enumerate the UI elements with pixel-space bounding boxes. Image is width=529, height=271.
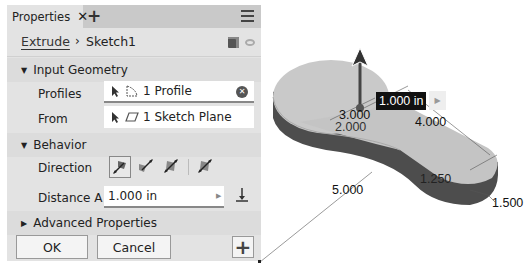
3d-viewport[interactable] — [261, 0, 529, 271]
section-title: Advanced Properties — [33, 216, 157, 230]
distance-menu-arrow-icon[interactable]: ▶ — [216, 192, 221, 200]
dimension-5000[interactable]: 5.000 — [332, 183, 363, 197]
distance-a-label: Distance A — [38, 191, 103, 205]
direction-asymmetric-icon — [195, 156, 215, 176]
tab-properties[interactable]: Properties ✕ — [7, 5, 83, 28]
collapse-triangle-icon: ▼ — [21, 141, 27, 150]
collapse-triangle-icon: ▼ — [21, 66, 27, 75]
from-value: 1 Sketch Plane — [143, 110, 232, 124]
direction-default-icon — [110, 157, 130, 177]
expand-triangle-icon: ▶ — [21, 219, 27, 228]
add-button[interactable]: + — [232, 236, 254, 258]
extrude-distance-input[interactable]: 1.000 in — [376, 92, 426, 110]
panel-tab-bar: Properties ✕ + — [7, 5, 261, 28]
direction-flipped-icon — [136, 156, 156, 176]
distance-a-input[interactable]: 1.000 in — [104, 186, 224, 208]
direction-default-button[interactable] — [109, 156, 131, 178]
profiles-selector[interactable]: 1 Profile ✕ — [104, 81, 254, 103]
sketch-plane-icon — [125, 111, 139, 123]
add-tab-button[interactable]: + — [87, 6, 101, 26]
profiles-value: 1 Profile — [143, 84, 192, 98]
breadcrumb-extrude-link[interactable]: Extrude — [21, 34, 70, 49]
cancel-button[interactable]: Cancel — [97, 235, 171, 259]
from-selector[interactable]: 1 Sketch Plane — [104, 106, 254, 128]
section-input-geometry[interactable]: ▼ Input Geometry — [7, 58, 261, 82]
hamburger-menu-icon[interactable] — [241, 10, 254, 22]
profile-icon — [125, 85, 139, 97]
section-title: Behavior — [33, 138, 86, 152]
breadcrumb: Extrude › Sketch1 — [7, 28, 261, 57]
direction-symmetric-button[interactable] — [161, 156, 183, 178]
ok-button[interactable]: OK — [16, 235, 88, 259]
section-behavior[interactable]: ▼ Behavior — [7, 133, 261, 157]
from-label: From — [38, 112, 68, 126]
breadcrumb-current: Sketch1 — [86, 34, 136, 49]
dimension-1250[interactable]: 1.250 — [420, 172, 451, 186]
section-title: Input Geometry — [33, 63, 128, 77]
section-advanced-properties[interactable]: ▶ Advanced Properties — [7, 211, 261, 235]
measure-icon[interactable] — [235, 187, 249, 204]
toolbar-divider — [188, 159, 189, 175]
direction-flipped-button[interactable] — [136, 156, 158, 178]
breadcrumb-separator-icon: › — [75, 34, 80, 48]
solid-cube-icon[interactable] — [228, 37, 239, 48]
direction-asymmetric-button[interactable] — [195, 156, 217, 178]
dimension-4000[interactable]: 4.000 — [415, 115, 446, 129]
eye-icon[interactable] — [245, 39, 255, 46]
profiles-label: Profiles — [38, 87, 82, 101]
select-cursor-icon — [112, 86, 119, 97]
value-menu-arrow-icon[interactable]: ▶ — [429, 91, 446, 110]
select-cursor-icon — [112, 112, 119, 123]
direction-label: Direction — [38, 161, 92, 175]
tab-label: Properties — [12, 10, 70, 24]
properties-panel: Properties ✕ + Extrude › Sketch1 ▼ Input… — [7, 5, 261, 261]
dimension-1500[interactable]: 1.500 — [492, 196, 523, 210]
dimension-2000[interactable]: 2.000 — [335, 120, 366, 134]
clear-icon[interactable]: ✕ — [236, 86, 248, 98]
direction-symmetric-icon — [161, 156, 181, 176]
